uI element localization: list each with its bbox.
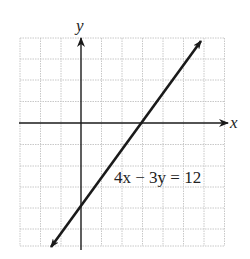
y-axis-label: y: [74, 16, 84, 35]
equation-label: 4x − 3y = 12: [114, 168, 201, 187]
graph: y x 4x − 3y = 12: [0, 0, 250, 259]
grid: [20, 38, 225, 246]
x-axis-label: x: [229, 113, 238, 132]
